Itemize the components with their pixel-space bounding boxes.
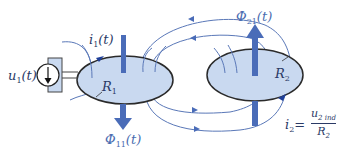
source-voltage-label: u1(t)	[8, 69, 37, 85]
flux-phi11-arrow-icon	[114, 118, 132, 130]
current-i2-label: i2=	[285, 118, 305, 134]
resistance-r2-label: R2	[275, 67, 290, 83]
field-line-arrows	[188, 16, 200, 132]
coupled-loops-diagram: u1(t) i1(t) R1 Φ11(t) Φ21(t) R2 i2= u2 i…	[0, 0, 346, 153]
resistance-r1-label: R1	[102, 80, 117, 96]
flux-phi11-label: Φ11(t)	[105, 133, 141, 149]
flux-phi21-label: Φ21(t)	[236, 10, 272, 26]
current-i1-label: i1(t)	[89, 33, 114, 49]
current-i2-equation-fraction: u2 ind R2	[311, 107, 336, 140]
flux-phi21-arrow-icon	[246, 24, 264, 38]
fraction-bar	[311, 123, 336, 124]
